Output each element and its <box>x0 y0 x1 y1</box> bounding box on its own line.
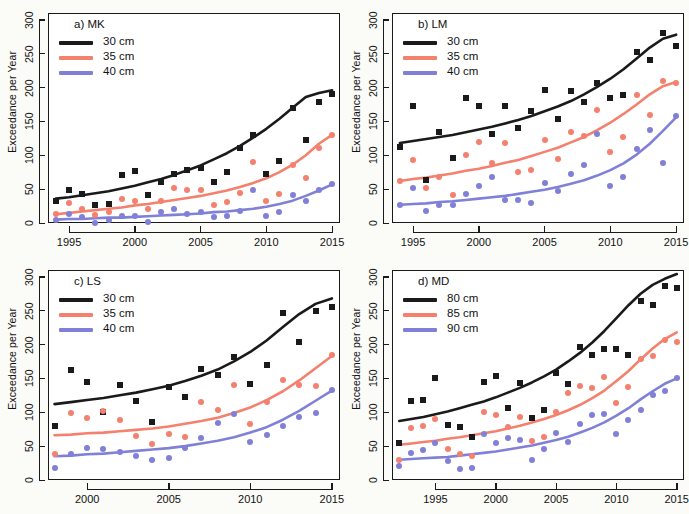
data-point-a-1-5 <box>119 196 125 202</box>
data-point-d-1-6 <box>469 453 475 459</box>
data-point-b-0-16 <box>607 95 613 101</box>
legend-label-d-1: 85 cm <box>447 307 478 319</box>
data-point-b-2-7 <box>489 174 495 180</box>
data-point-d-2-10 <box>517 437 523 443</box>
data-point-b-2-14 <box>581 162 587 168</box>
data-point-a-1-8 <box>158 198 164 204</box>
data-point-d-0-7 <box>481 379 487 385</box>
data-point-d-0-11 <box>529 415 535 421</box>
data-point-a-0-19 <box>303 137 309 143</box>
data-point-d-1-13 <box>553 409 559 415</box>
data-point-d-0-6 <box>469 434 475 440</box>
data-point-c-0-17 <box>329 304 335 310</box>
data-point-a-2-7 <box>145 219 151 225</box>
data-point-b-0-13 <box>568 88 574 94</box>
data-point-d-2-21 <box>650 392 656 398</box>
data-point-a-1-14 <box>237 190 243 196</box>
data-point-d-0-23 <box>674 285 680 291</box>
data-point-a-1-1 <box>66 200 72 206</box>
fit-line-c-0 <box>55 298 332 404</box>
data-point-b-1-1 <box>410 157 416 163</box>
data-point-a-0-11 <box>198 165 204 171</box>
data-point-a-0-14 <box>237 145 243 151</box>
data-point-b-0-10 <box>528 108 534 114</box>
legend-label-b-0: 30 cm <box>447 35 478 47</box>
data-point-a-2-18 <box>290 192 296 198</box>
chart-panel-d: 050100150200250300Exceedance per Year199… <box>344 257 688 514</box>
data-point-a-2-14 <box>237 208 243 214</box>
data-point-a-2-21 <box>329 181 335 187</box>
data-point-a-2-5 <box>119 213 125 219</box>
data-point-b-0-2 <box>423 177 429 183</box>
data-point-d-1-20 <box>638 356 644 362</box>
data-point-b-2-12 <box>555 188 561 194</box>
data-point-c-2-7 <box>166 455 172 461</box>
data-point-a-0-18 <box>290 105 296 111</box>
data-point-d-0-4 <box>445 422 451 428</box>
data-point-d-0-5 <box>457 424 463 430</box>
data-point-a-2-11 <box>198 209 204 215</box>
legend-label-a-2: 40 cm <box>103 65 134 77</box>
data-point-c-1-13 <box>264 399 270 405</box>
data-point-a-1-19 <box>303 175 309 181</box>
legend-swatch-d-0 <box>403 298 437 302</box>
data-point-d-0-1 <box>408 398 414 404</box>
data-point-d-0-20 <box>638 298 644 304</box>
legend-swatch-c-1 <box>59 313 93 317</box>
legend-label-d-2: 90 cm <box>447 322 478 334</box>
data-point-c-2-4 <box>117 449 123 455</box>
data-point-a-0-1 <box>66 187 72 193</box>
data-point-c-1-7 <box>166 431 172 437</box>
data-point-c-1-17 <box>329 352 335 358</box>
data-point-d-1-7 <box>481 409 487 415</box>
data-point-d-1-10 <box>517 414 523 420</box>
data-point-c-0-13 <box>264 362 270 368</box>
legend-swatch-b-0 <box>403 41 437 45</box>
data-point-b-2-19 <box>647 127 653 133</box>
data-point-d-2-20 <box>638 407 644 413</box>
legend-label-a-1: 35 cm <box>103 50 134 62</box>
data-point-d-0-12 <box>541 407 547 413</box>
data-point-a-2-4 <box>106 217 112 223</box>
data-point-b-0-14 <box>581 99 587 105</box>
data-point-b-0-12 <box>555 116 561 122</box>
data-point-a-2-0 <box>53 217 59 223</box>
data-point-b-2-4 <box>450 202 456 208</box>
data-point-d-0-16 <box>589 352 595 358</box>
data-point-b-1-11 <box>542 137 548 143</box>
legend-swatch-a-1 <box>59 56 93 60</box>
data-point-c-0-9 <box>198 366 204 372</box>
data-point-b-2-18 <box>634 146 640 152</box>
data-point-c-0-8 <box>182 394 188 400</box>
legend-swatch-a-2 <box>59 71 93 75</box>
data-point-c-2-10 <box>215 420 221 426</box>
data-point-a-2-1 <box>66 211 72 217</box>
data-point-c-1-10 <box>215 407 221 413</box>
data-point-d-0-19 <box>625 352 631 358</box>
data-point-a-0-15 <box>250 132 256 138</box>
panel-title-b: b) LM <box>418 18 447 30</box>
data-point-b-0-7 <box>489 131 495 137</box>
data-point-b-0-4 <box>450 155 456 161</box>
data-point-d-1-12 <box>541 434 547 440</box>
data-point-c-1-1 <box>68 410 74 416</box>
data-point-d-1-9 <box>505 424 511 430</box>
data-point-c-0-12 <box>247 381 253 387</box>
data-point-b-0-3 <box>436 129 442 135</box>
data-point-a-0-7 <box>145 192 151 198</box>
data-point-b-1-18 <box>634 92 640 98</box>
data-point-b-2-2 <box>423 208 429 214</box>
figure-exceedance-panels: 050100150200250300Exceedance per Year199… <box>0 0 689 514</box>
data-point-a-1-18 <box>290 162 296 168</box>
chart-panel-c: 050100150200250300Exceedance per Year200… <box>0 257 344 514</box>
data-point-b-1-4 <box>450 192 456 198</box>
data-point-d-0-14 <box>565 381 571 387</box>
data-point-c-0-2 <box>84 379 90 385</box>
data-point-d-2-12 <box>541 446 547 452</box>
data-point-c-2-13 <box>264 432 270 438</box>
data-point-b-0-0 <box>397 144 403 150</box>
data-point-b-0-18 <box>634 49 640 55</box>
chart-panel-b: 050100150200250300Exceedance per Year199… <box>344 0 688 257</box>
data-point-c-0-1 <box>68 367 74 373</box>
data-point-b-0-9 <box>515 125 521 131</box>
